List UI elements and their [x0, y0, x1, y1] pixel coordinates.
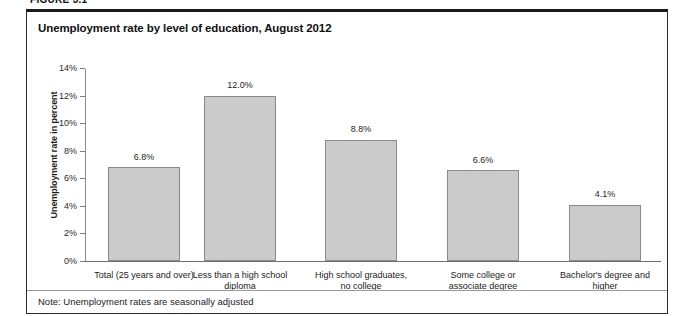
bar-less-than-high-school [204, 96, 276, 261]
bar-value-1: 12.0% [227, 80, 253, 90]
bar-value-2: 8.8% [351, 124, 372, 134]
bar-value-4: 4.1% [595, 189, 616, 199]
y-tick-label-8: 8% [41, 146, 77, 156]
note-divider [27, 290, 667, 291]
bar-some-college [447, 170, 519, 261]
figure-screenshot: FIGURE 3.1 Unemployment rate by level of… [0, 0, 681, 316]
bar-bachelors-degree-and-higher [569, 205, 641, 262]
y-tick-label-0: 0% [41, 256, 77, 266]
figure-note: Note: Unemployment rates are seasonally … [38, 296, 253, 307]
bar-chart-plot: Unemployment rate in percent 0% 2% 4% 6%… [27, 12, 669, 316]
figure-panel: Unemployment rate by level of education,… [26, 9, 668, 314]
y-tick-label-6: 6% [41, 173, 77, 183]
bar-high-school-graduates [325, 140, 397, 261]
x-axis-line [85, 261, 661, 262]
y-tick-label-14: 14% [41, 63, 77, 73]
y-tick-label-10: 10% [41, 118, 77, 128]
bar-total-25-and-over [108, 167, 180, 261]
y-tick-label-12: 12% [41, 91, 77, 101]
bar-value-0: 6.8% [134, 152, 155, 162]
bar-value-3: 6.6% [473, 155, 494, 165]
category-label-4: Bachelor's degree and higher [525, 270, 681, 292]
figure-number-label: FIGURE 3.1 [30, 0, 87, 5]
y-tick-label-2: 2% [41, 228, 77, 238]
y-axis-line [85, 69, 86, 262]
y-tick-label-4: 4% [41, 201, 77, 211]
